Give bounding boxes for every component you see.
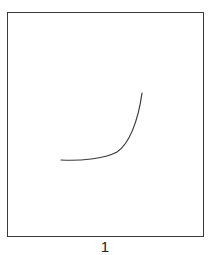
- growth-curve: [61, 93, 142, 160]
- curve-graphic: [0, 0, 220, 255]
- panel-label: 1: [0, 238, 210, 255]
